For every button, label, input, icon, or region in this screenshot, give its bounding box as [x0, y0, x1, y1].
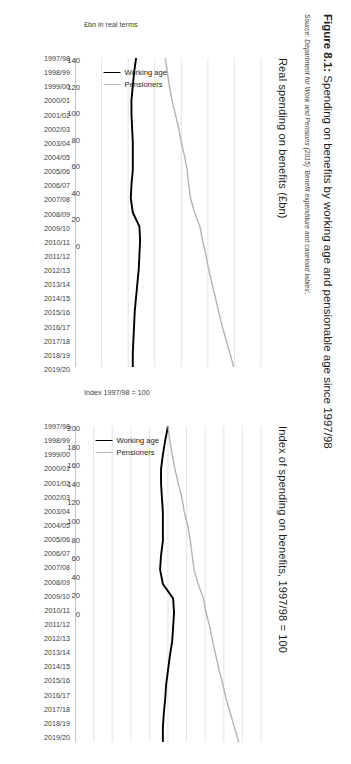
x-axis-tick-label: 2000/01: [44, 464, 70, 473]
chart-title-index-spending: Index of spending on benefits, 1997/98 =…: [277, 426, 289, 653]
x-axis-tick-label: 1997/98: [44, 54, 70, 63]
x-axis-tick-label: 2017/18: [44, 336, 70, 345]
x-axis-tick-label: 2018/19: [44, 718, 70, 727]
x-axis-tick-label: 1999/00: [44, 450, 70, 459]
x-axis-tick-label: 2010/11: [45, 237, 70, 246]
x-axis-tick-label: 1999/00: [44, 82, 70, 91]
x-axis-tick-label: 2019/20: [44, 365, 70, 374]
x-axis-tick-label: 1997/98: [44, 422, 70, 431]
x-axis-tick-label: 2006/07: [44, 181, 70, 190]
legend-label: Pensioners: [117, 448, 155, 457]
x-axis-tick-label: 2013/14: [44, 280, 70, 289]
x-axis-tick-label: 2006/07: [44, 549, 70, 558]
legend-item: Working age: [96, 436, 160, 445]
chart-legend: Working agePensioners: [96, 436, 160, 460]
x-axis-tick-label: 2015/16: [44, 308, 70, 317]
x-axis-tick-label: 2007/08: [44, 563, 70, 572]
legend-item: Pensioners: [104, 80, 168, 89]
x-axis-tick-label: 2017/18: [44, 704, 70, 713]
x-axis-tick-label: 2003/04: [44, 506, 70, 515]
legend-item: Pensioners: [96, 448, 160, 457]
x-axis-tick-label: 2008/09: [44, 577, 70, 586]
x-axis-tick-label: 2004/05: [44, 520, 70, 529]
x-axis-tick-label: 2014/15: [44, 294, 70, 303]
rotated-page-wrapper: Figure 8.1: Spending on benefits by work…: [0, 0, 351, 764]
x-axis-tick-label: 2010/11: [45, 605, 70, 614]
x-axis-tick-label: 1998/99: [44, 68, 70, 77]
x-axis-tick-label: 2003/04: [44, 138, 70, 147]
figure-number: Figure 8.1:: [322, 14, 334, 72]
plot-area-real-spending: 0204060801001201401997/981998/991999/002…: [75, 58, 263, 367]
legend-line-icon: [96, 440, 113, 441]
x-axis-tick-label: 2014/15: [44, 662, 70, 671]
legend-line-icon: [104, 72, 121, 73]
x-axis-tick-label: 2013/14: [44, 648, 70, 657]
x-axis-tick-label: 2011/12: [45, 619, 70, 628]
x-axis-tick-label: 2000/01: [44, 96, 70, 105]
x-axis-tick-label: 2009/10: [44, 223, 70, 232]
x-axis-tick-label: 2005/06: [44, 535, 70, 544]
chart-title-real-spending: Real spending on benefits (£bn): [277, 58, 289, 219]
x-axis-tick-label: 2002/03: [44, 124, 70, 133]
x-axis-tick-label: 2019/20: [44, 733, 70, 742]
x-axis-tick-label: 2001/02: [44, 478, 70, 487]
chart-legend: Working agePensioners: [104, 68, 168, 92]
x-axis-tick-label: 2012/13: [44, 634, 70, 643]
x-axis-tick-label: 2018/19: [44, 350, 70, 359]
y-axis-title-index-spending: Index 1997/98 = 100: [84, 388, 150, 397]
x-axis-tick-label: 2005/06: [44, 167, 70, 176]
x-axis-tick-label: 2001/02: [44, 110, 70, 119]
x-axis-tick-label: 2009/10: [44, 591, 70, 600]
chart-panel-real-spending: Real spending on benefits (£bn) £bn in r…: [17, 14, 289, 369]
legend-item: Working age: [104, 68, 168, 77]
chart-panel-index-spending: Index of spending on benefits, 1997/98 =…: [17, 382, 289, 744]
legend-label: Pensioners: [125, 80, 163, 89]
x-axis-tick-label: 2007/08: [44, 195, 70, 204]
x-axis-tick-label: 2016/17: [44, 690, 70, 699]
page-title: Figure 8.1: Spending on benefits by work…: [321, 14, 335, 614]
figure-source: Source: Department for Work and Pensions…: [304, 14, 311, 614]
x-axis-tick-label: 2002/03: [44, 492, 70, 501]
legend-label: Working age: [125, 68, 168, 77]
x-axis-tick-label: 2004/05: [44, 152, 70, 161]
legend-line-icon: [104, 84, 121, 85]
x-axis-tick-label: 2016/17: [44, 322, 70, 331]
legend-label: Working age: [117, 436, 160, 445]
y-axis-title-real-spending: £bn in real terms: [84, 20, 138, 29]
x-axis-tick-label: 2015/16: [44, 676, 70, 685]
legend-line-icon: [96, 452, 113, 453]
figure-title-text: Spending on benefits by working age and …: [322, 75, 334, 448]
plot-area-index-spending: 0204060801001201401601802001997/981998/9…: [75, 426, 263, 742]
x-axis-tick-label: 2008/09: [44, 209, 70, 218]
x-axis-tick-label: 2012/13: [44, 266, 70, 275]
x-axis-tick-label: 1998/99: [44, 436, 70, 445]
x-axis-tick-label: 2011/12: [45, 251, 70, 260]
figure-page: Figure 8.1: Spending on benefits by work…: [0, 0, 351, 764]
